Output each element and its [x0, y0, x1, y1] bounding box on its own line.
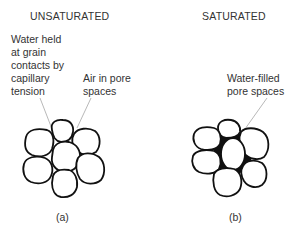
grain	[76, 153, 104, 183]
grain	[193, 127, 220, 150]
grain	[25, 129, 53, 156]
leader-line-water-held	[40, 98, 52, 129]
grain	[23, 157, 52, 184]
saturated-grains	[192, 120, 268, 197]
unsaturated-grains	[23, 120, 104, 197]
grain	[221, 138, 245, 170]
leader-line-air-pores	[77, 98, 91, 128]
grain-diagram	[0, 0, 298, 232]
grain	[213, 168, 241, 196]
grain	[218, 120, 240, 138]
grain	[52, 120, 74, 142]
grain	[52, 170, 77, 198]
grain	[241, 161, 266, 187]
